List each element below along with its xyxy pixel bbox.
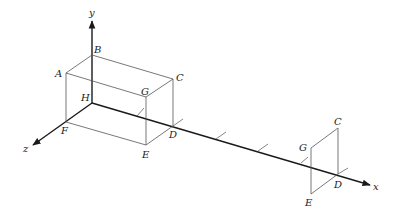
vertex-label-b: B xyxy=(93,44,101,55)
vertex-label-f: F xyxy=(60,125,69,136)
z-axis-label: z xyxy=(22,143,29,154)
diagram-canvas: y z x A B C G H F E D G C D E xyxy=(0,0,394,219)
proj-label-g: G xyxy=(299,142,307,153)
x-axis xyxy=(92,103,370,185)
projection-diagram: y z x A B C G H F E D G C D E xyxy=(0,0,394,219)
proj-label-d: D xyxy=(333,179,342,190)
z-axis xyxy=(33,103,92,145)
vertex-label-a: A xyxy=(54,68,62,79)
y-axis-label: y xyxy=(88,7,95,18)
vertex-label-e: E xyxy=(141,149,150,160)
vertex-label-c: C xyxy=(176,72,184,83)
vertex-label-h: H xyxy=(80,92,90,103)
proj-label-e: E xyxy=(304,197,313,208)
x-axis-ticks xyxy=(137,108,348,174)
x-axis-label: x xyxy=(373,181,379,192)
vertex-label-d: D xyxy=(168,129,177,140)
proj-label-c: C xyxy=(334,116,342,127)
vertex-label-g: G xyxy=(141,86,149,97)
